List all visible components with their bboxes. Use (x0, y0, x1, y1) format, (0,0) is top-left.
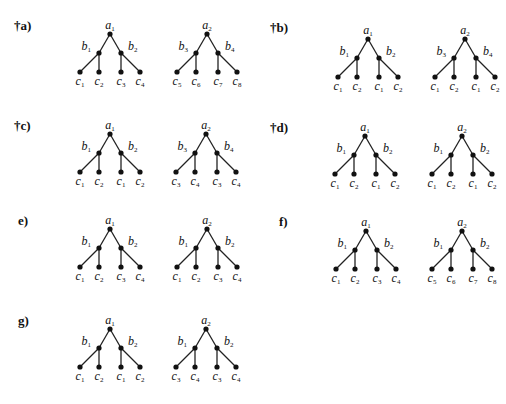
branch-node (374, 247, 379, 252)
leaf-label: c2 (192, 269, 201, 284)
leaf-label: c1 (469, 176, 478, 191)
leaf-label: c2 (488, 176, 497, 191)
leaf-label: c5 (428, 271, 437, 286)
leaf-label: c1 (431, 79, 440, 94)
leaf-label: c3 (117, 74, 126, 89)
branch-label: b1 (179, 234, 189, 249)
tree-edge (196, 34, 207, 53)
tree-edge (121, 153, 140, 172)
tree-edge (177, 53, 196, 72)
tree-edge (376, 155, 395, 174)
leaf-label: c1 (76, 174, 85, 189)
leaf-label: c4 (233, 269, 242, 284)
tree-edge (195, 329, 206, 348)
root-label: a1 (361, 215, 371, 230)
tree-edge (218, 248, 237, 267)
tree-edge (206, 134, 217, 153)
tree-edge (335, 155, 354, 174)
leaf-label: c2 (95, 74, 104, 89)
branch-label: b1 (82, 39, 92, 54)
tree-edge (110, 229, 121, 248)
branch-label: b2 (128, 334, 138, 349)
branch-label: b2 (224, 334, 234, 349)
leaf-label: c1 (375, 79, 384, 94)
leaf-label: c2 (136, 369, 145, 384)
leaf-label: c2 (95, 369, 104, 384)
leaf-label: c1 (173, 269, 182, 284)
tree-edge (377, 250, 396, 269)
tree-edge (462, 231, 473, 250)
tree-edge (196, 229, 207, 248)
branch-label: b2 (480, 236, 490, 251)
branch-node (448, 152, 453, 157)
root-label: a2 (202, 213, 212, 228)
root-label: a2 (201, 118, 211, 133)
tree-edge (379, 58, 398, 77)
branch-node (352, 247, 357, 252)
branch-label: b3 (437, 44, 447, 59)
branch-node (373, 152, 378, 157)
leaf-label: c3 (213, 174, 222, 189)
root-label: a1 (105, 313, 115, 328)
root-label: a2 (201, 313, 211, 328)
branch-node (193, 50, 198, 55)
tree-edge (121, 248, 140, 267)
tree-edge (110, 34, 121, 53)
leaf-label: c2 (394, 79, 403, 94)
root-label: a1 (363, 23, 373, 38)
leaf-label: c1 (117, 369, 126, 384)
tree-edge (80, 153, 99, 172)
leaf-label: c1 (76, 74, 85, 89)
tree-edge (218, 53, 237, 72)
branch-label: b2 (383, 141, 393, 156)
root-label: a2 (202, 18, 212, 33)
leaf-label: c8 (233, 74, 242, 89)
branch-node (192, 150, 197, 155)
tree-edge (110, 134, 121, 153)
branch-node (118, 245, 123, 250)
branch-label: b1 (434, 141, 444, 156)
tree-edge (473, 155, 492, 174)
branch-label: b1 (178, 334, 188, 349)
tree-edge (121, 348, 140, 367)
leaf-label: c2 (391, 176, 400, 191)
tree-edge (473, 250, 492, 269)
leaf-label: c3 (214, 269, 223, 284)
leaf-label: c4 (191, 174, 200, 189)
tree-edge (355, 231, 366, 250)
leaf-label: c4 (392, 271, 401, 286)
branch-node (448, 247, 453, 252)
branch-node (354, 55, 359, 60)
root-label: a1 (360, 120, 370, 135)
leaf-label: c1 (334, 79, 343, 94)
branch-label: b2 (480, 141, 490, 156)
branch-node (96, 150, 101, 155)
tree-edge (176, 153, 195, 172)
branch-label: b4 (224, 139, 234, 154)
branch-node (193, 245, 198, 250)
branch-label: b2 (386, 44, 396, 59)
leaf-label: c4 (232, 174, 241, 189)
leaf-label: c3 (117, 269, 126, 284)
root-label: a1 (105, 213, 115, 228)
trees-canvas: a1b1b2c1c2c3c4a2b3b4c5c6c7c8a1b1b2c1c2c1… (0, 0, 506, 404)
branch-label: b2 (128, 39, 138, 54)
leaf-label: c5 (173, 74, 182, 89)
tree-edge (451, 136, 462, 155)
branch-label: b3 (178, 139, 188, 154)
tree-edge (454, 39, 465, 58)
branch-node (192, 345, 197, 350)
branch-label: b1 (337, 141, 347, 156)
tree-edge (176, 348, 195, 367)
leaf-label: c1 (472, 79, 481, 94)
tree-edge (217, 153, 236, 172)
tree-edge (110, 329, 121, 348)
branch-node (473, 55, 478, 60)
leaf-label: c1 (117, 174, 126, 189)
leaf-label: c4 (232, 369, 241, 384)
tree-edge (217, 348, 236, 367)
tree-edge (80, 248, 99, 267)
leaf-label: c1 (372, 176, 381, 191)
branch-node (351, 152, 356, 157)
root-label: a1 (105, 118, 115, 133)
